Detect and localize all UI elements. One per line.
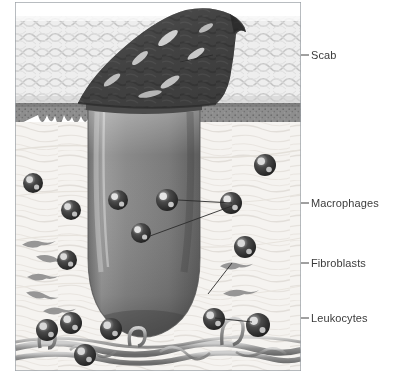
- leukocyte-cell: [246, 313, 270, 337]
- leukocyte-cell: [234, 236, 256, 258]
- leukocyte-cell: [61, 200, 81, 220]
- leukocyte-cell: [23, 173, 43, 193]
- label-fibroblasts: Fibroblasts: [311, 258, 366, 269]
- macrophage-cell: [131, 223, 151, 243]
- callout-leader-lines: [301, 55, 309, 318]
- leukocyte-cell: [60, 312, 82, 334]
- macrophage-cell: [156, 189, 178, 211]
- label-leukocytes: Leukocytes: [311, 313, 368, 324]
- leukocyte-cell: [254, 154, 276, 176]
- leukocyte-cell: [74, 344, 96, 366]
- macrophage-cell: [108, 190, 128, 210]
- illustration-root: Scab Macrophages Fibroblasts Leukocytes: [0, 0, 393, 392]
- figure-body: [15, 2, 301, 371]
- label-scab: Scab: [311, 50, 336, 61]
- label-macrophages: Macrophages: [311, 198, 379, 209]
- leukocyte-cell: [57, 250, 77, 270]
- leukocyte-cell: [36, 319, 58, 341]
- leukocyte-cell: [100, 318, 122, 340]
